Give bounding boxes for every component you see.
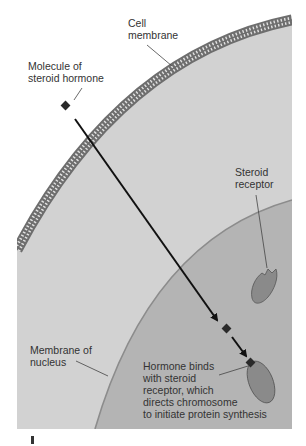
hormone-molecule [61, 101, 71, 111]
cell-membrane-label: Cell membrane [128, 17, 178, 41]
steroid-hormone-label: Molecule of steroid hormone [28, 60, 104, 84]
nucleus-membrane-label: Membrane of nucleus [30, 344, 92, 368]
binding-description-label: Hormone binds with steroid receptor, whi… [143, 360, 267, 420]
steroid-receptor-label: Steroid receptor [235, 166, 274, 190]
hormone-leader [74, 88, 82, 100]
figure-marker [31, 436, 34, 444]
cell-membrane-leader [147, 45, 172, 66]
steroid-hormone-diagram: Cell membrane Molecule of steroid hormon… [0, 0, 306, 446]
